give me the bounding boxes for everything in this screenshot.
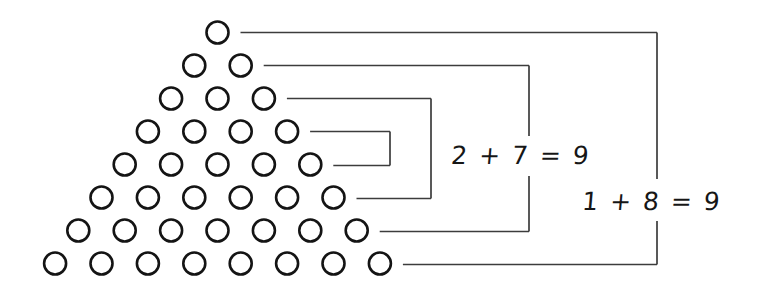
- triangle-dot: [137, 253, 159, 275]
- triangle-dot: [207, 154, 229, 176]
- pair-bracket-2-7: [264, 66, 529, 232]
- triangle-dot: [253, 220, 275, 242]
- triangle-dot: [207, 22, 229, 44]
- triangle-dot: [114, 154, 136, 176]
- dot-row-6: [91, 187, 345, 209]
- triangle-dot: [91, 187, 113, 209]
- dot-row-5: [114, 154, 322, 176]
- triangle-dot: [276, 121, 298, 143]
- triangle-dot: [183, 187, 205, 209]
- triangle-dot: [67, 220, 89, 242]
- triangle-dot: [323, 253, 345, 275]
- pair-bracket-3-6: [287, 99, 431, 199]
- triangle-dot: [114, 220, 136, 242]
- triangle-dot: [253, 154, 275, 176]
- dot-row-8: [44, 253, 391, 275]
- triangle-dot: [253, 88, 275, 110]
- triangle-dot: [137, 121, 159, 143]
- triangle-dot: [207, 220, 229, 242]
- triangle-dot: [299, 154, 321, 176]
- triangle-dot: [183, 55, 205, 77]
- triangle-dot: [230, 187, 252, 209]
- dot-row-2: [183, 55, 251, 77]
- triangle-dot: [91, 253, 113, 275]
- triangle-dot: [160, 154, 182, 176]
- triangle-dot: [323, 187, 345, 209]
- triangle-diagram-svg: [0, 0, 757, 295]
- triangle-dot: [137, 187, 159, 209]
- triangle-dot: [276, 253, 298, 275]
- triangle-dot: [207, 88, 229, 110]
- triangle-dot: [160, 220, 182, 242]
- dot-row-7: [67, 220, 367, 242]
- triangle-dot: [276, 187, 298, 209]
- dot-triangle: [44, 22, 391, 275]
- triangle-dot: [230, 253, 252, 275]
- triangle-dot: [369, 253, 391, 275]
- triangle-dot: [44, 253, 66, 275]
- triangle-dot: [183, 121, 205, 143]
- triangle-dot: [346, 220, 368, 242]
- pair-bracket-4-5: [310, 132, 390, 166]
- triangle-dot: [160, 88, 182, 110]
- triangle-dot: [230, 55, 252, 77]
- dot-row-3: [160, 88, 275, 110]
- triangle-dot: [183, 253, 205, 275]
- dot-row-4: [137, 121, 298, 143]
- triangle-dot: [299, 220, 321, 242]
- dot-row-1: [207, 22, 229, 44]
- triangular-numbers-diagram: 2 + 7 = 9 1 + 8 = 9: [0, 0, 757, 295]
- triangle-dot: [230, 121, 252, 143]
